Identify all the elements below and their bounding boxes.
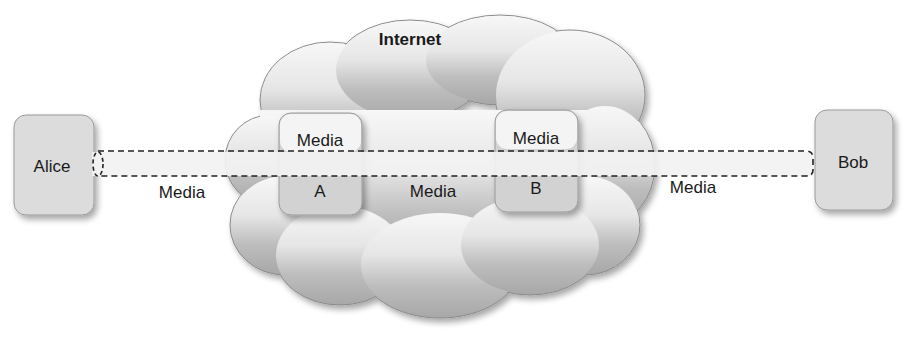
link-alice-relay-a-label: Media <box>159 183 205 203</box>
media-tunnel <box>92 151 813 176</box>
relay-a-bottom-label: A <box>314 182 325 202</box>
alice-label: Alice <box>34 157 71 177</box>
tunnel-opening-icon <box>93 152 103 176</box>
relay-b-bottom-label: B <box>530 179 541 199</box>
relay-a-top-label: Media <box>297 131 343 151</box>
bob-label: Bob <box>838 153 868 173</box>
internet-label: Internet <box>379 30 441 50</box>
diagram-canvas <box>0 0 918 350</box>
link-relay-a-relay-b-label: Media <box>410 182 456 202</box>
link-relay-b-bob-label: Media <box>670 178 716 198</box>
relay-b-top-label: Media <box>513 129 559 149</box>
